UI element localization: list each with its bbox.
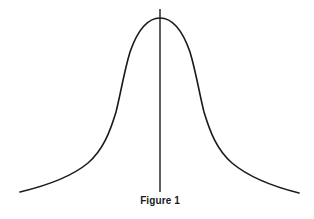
figure-caption: Figure 1 [0,195,314,206]
bell-curve-figure [0,0,314,219]
